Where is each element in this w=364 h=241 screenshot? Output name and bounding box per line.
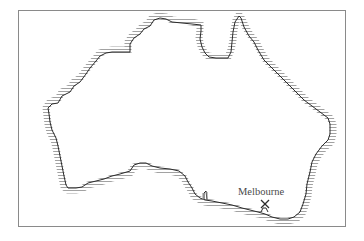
australia-map (0, 0, 364, 241)
coastline-hatching (46, 15, 333, 221)
melbourne-label: Melbourne (238, 187, 284, 198)
melbourne-marker-icon[interactable] (261, 200, 269, 208)
port-phillip-bay (261, 208, 268, 212)
